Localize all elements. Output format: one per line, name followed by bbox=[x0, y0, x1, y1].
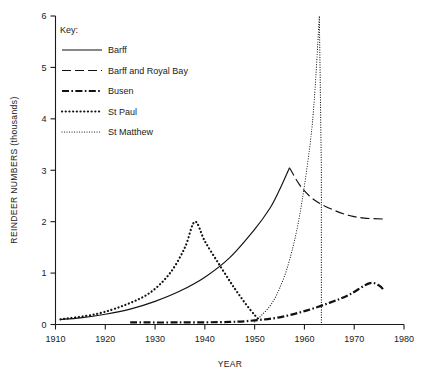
y-tick-label: 3 bbox=[41, 166, 46, 176]
x-tick-label: 1930 bbox=[145, 334, 165, 344]
series-line-barff-and-royal-bay bbox=[289, 168, 384, 219]
legend: Key: BarffBarff and Royal BayBusenSt Pau… bbox=[60, 25, 188, 137]
y-tick-group: 0123456 bbox=[41, 11, 55, 330]
x-tick-label: 1950 bbox=[245, 334, 265, 344]
x-tick-group: 19101920193019401950196019701980 bbox=[45, 325, 414, 344]
legend-label-barff: Barff bbox=[108, 45, 127, 55]
reindeer-population-chart: 0123456 REINDEER NUMBERS (thousands) 191… bbox=[0, 0, 428, 374]
series-line-barff bbox=[60, 168, 289, 320]
y-tick-label: 6 bbox=[41, 11, 46, 21]
series-line-busen bbox=[130, 283, 384, 323]
x-axis: 19101920193019401950196019701980 YEAR bbox=[45, 325, 414, 370]
series-group bbox=[60, 16, 384, 325]
y-axis: 0123456 REINDEER NUMBERS (thousands) bbox=[9, 11, 56, 330]
x-tick-label: 1940 bbox=[195, 334, 215, 344]
y-tick-label: 2 bbox=[41, 217, 46, 227]
y-tick-label: 1 bbox=[41, 268, 46, 278]
x-tick-label: 1960 bbox=[294, 334, 314, 344]
legend-label-st-matthew: St Matthew bbox=[108, 127, 154, 137]
y-tick-label: 4 bbox=[41, 114, 46, 124]
legend-label-busen: Busen bbox=[108, 86, 134, 96]
y-tick-label: 0 bbox=[41, 320, 46, 330]
legend-label-st-paul: St Paul bbox=[108, 107, 137, 117]
series-line-st-paul bbox=[60, 222, 259, 321]
y-axis-title: REINDEER NUMBERS (thousands) bbox=[9, 96, 19, 243]
legend-label-barff-and-royal-bay: Barff and Royal Bay bbox=[108, 66, 188, 76]
y-tick-label: 5 bbox=[41, 63, 46, 73]
x-tick-label: 1970 bbox=[344, 334, 364, 344]
legend-title: Key: bbox=[60, 25, 78, 35]
x-tick-label: 1980 bbox=[394, 334, 414, 344]
x-axis-title: YEAR bbox=[218, 359, 243, 369]
legend-items: BarffBarff and Royal BayBusenSt PaulSt M… bbox=[62, 45, 188, 137]
x-tick-label: 1920 bbox=[95, 334, 115, 344]
x-tick-label: 1910 bbox=[45, 334, 65, 344]
chart-svg: 0123456 REINDEER NUMBERS (thousands) 191… bbox=[0, 0, 428, 374]
